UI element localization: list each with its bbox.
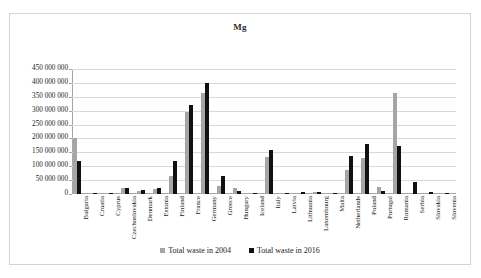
bar-group[interactable] [200, 69, 216, 194]
bar[interactable] [189, 105, 193, 194]
bar-group[interactable] [152, 69, 168, 194]
bar[interactable] [425, 193, 429, 194]
bar[interactable] [393, 93, 397, 194]
bar[interactable] [265, 157, 269, 195]
bar[interactable] [441, 193, 445, 194]
bar-group[interactable] [296, 69, 312, 194]
bar[interactable] [157, 188, 161, 194]
bar-group[interactable] [440, 69, 456, 194]
bar[interactable] [217, 186, 221, 194]
x-tick-label: Italy [275, 196, 282, 208]
bar[interactable] [233, 188, 237, 194]
bar-group[interactable] [136, 69, 152, 194]
bar[interactable] [201, 93, 205, 194]
bar[interactable] [77, 161, 81, 194]
bar-group[interactable] [88, 69, 104, 194]
bar-group[interactable] [328, 69, 344, 194]
x-tick-label: Iceland [259, 196, 266, 216]
bar[interactable] [73, 138, 77, 194]
bar-group[interactable] [216, 69, 232, 194]
x-tick-label: Poland [371, 196, 378, 215]
y-tick-label: 0 [64, 190, 68, 197]
bar[interactable] [329, 193, 333, 194]
x-tick-label: Lithuania [307, 196, 314, 222]
x-tick-label: Croatia [99, 196, 106, 216]
bar[interactable] [169, 176, 173, 194]
x-tick-label: Cyprus [115, 196, 122, 216]
bar-group[interactable] [168, 69, 184, 194]
bar[interactable] [105, 193, 109, 194]
y-tick-mark [69, 194, 72, 195]
bar[interactable] [313, 192, 317, 194]
bar[interactable] [109, 193, 113, 194]
x-tick-label: Netherlands [355, 196, 362, 229]
bar[interactable] [413, 182, 417, 194]
y-tick-label: 200 000 000 [32, 135, 68, 142]
x-tick-label: Romania [403, 196, 410, 221]
bar[interactable] [237, 191, 241, 194]
bar[interactable] [445, 193, 449, 194]
bar[interactable] [269, 150, 273, 194]
legend-swatch [249, 248, 254, 253]
bar-group[interactable] [72, 69, 88, 194]
x-tick-label: Greece [227, 196, 234, 215]
bar-group[interactable] [312, 69, 328, 194]
bar-group[interactable] [104, 69, 120, 194]
chart-legend: Total waste in 2004Total waste in 2016 [10, 246, 470, 255]
bar[interactable] [121, 188, 125, 194]
x-tick-label: Serbia [419, 196, 426, 213]
bar-group[interactable] [376, 69, 392, 194]
legend-item[interactable]: Total waste in 2004 [160, 246, 231, 255]
bar-group[interactable] [184, 69, 200, 194]
bars-layer [72, 69, 456, 194]
bar[interactable] [429, 192, 433, 194]
bar[interactable] [345, 170, 349, 194]
bar-group[interactable] [360, 69, 376, 194]
x-tick-label: Estonia [163, 196, 170, 216]
bar[interactable] [137, 191, 141, 194]
bar-group[interactable] [232, 69, 248, 194]
x-tick-label: Malta [339, 196, 346, 212]
bar[interactable] [89, 193, 93, 194]
bar-group[interactable] [280, 69, 296, 194]
x-tick-label: Portugal [387, 196, 394, 219]
y-tick-label: 350 000 000 [32, 93, 68, 100]
y-tick-label: 150 000 000 [32, 149, 68, 156]
bar[interactable] [397, 146, 401, 194]
bar[interactable] [317, 192, 321, 194]
bar-group[interactable] [392, 69, 408, 194]
bar[interactable] [221, 176, 225, 194]
legend-item[interactable]: Total waste in 2016 [249, 246, 320, 255]
bar[interactable] [205, 83, 209, 194]
bar[interactable] [93, 193, 97, 194]
bar[interactable] [377, 187, 381, 194]
y-tick-label: 450 000 000 [32, 65, 68, 72]
legend-label: Total waste in 2004 [168, 246, 231, 255]
y-tick-label: 100 000 000 [32, 163, 68, 170]
y-tick-label: 400 000 000 [32, 79, 68, 86]
bar-group[interactable] [120, 69, 136, 194]
bar[interactable] [381, 191, 385, 194]
bar[interactable] [173, 161, 177, 194]
bar[interactable] [301, 192, 305, 194]
bar-group[interactable] [264, 69, 280, 194]
bar[interactable] [281, 193, 285, 194]
bar[interactable] [349, 156, 353, 194]
bar[interactable] [153, 189, 157, 194]
bar[interactable] [249, 193, 253, 194]
bar[interactable] [365, 144, 369, 194]
bar[interactable] [185, 112, 189, 194]
bar[interactable] [125, 188, 129, 194]
bar-group[interactable] [408, 69, 424, 194]
bar[interactable] [297, 193, 301, 194]
bar-group[interactable] [248, 69, 264, 194]
bar-group[interactable] [424, 69, 440, 194]
bar[interactable] [333, 193, 337, 194]
bar[interactable] [253, 193, 257, 194]
bar-group[interactable] [344, 69, 360, 194]
bar[interactable] [141, 190, 145, 194]
x-tick-label: Latvia [291, 196, 298, 213]
bar[interactable] [285, 193, 289, 194]
chart-frame: Mg 450 000 000400 000 000350 000 000300 … [9, 13, 471, 265]
bar[interactable] [361, 158, 365, 194]
